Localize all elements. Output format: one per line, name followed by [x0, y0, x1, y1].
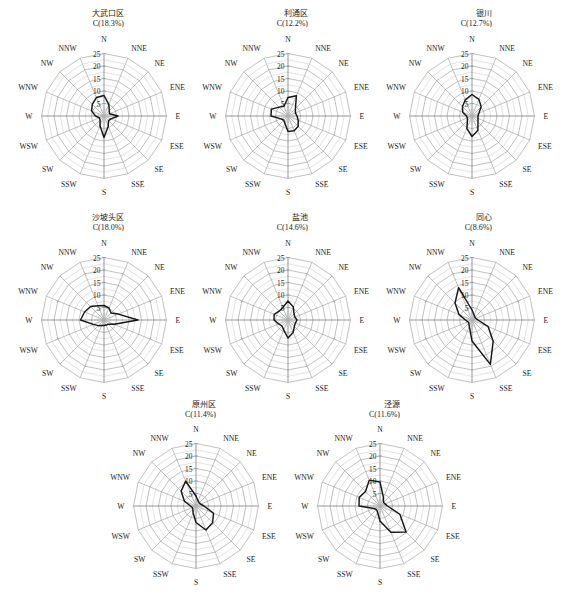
direction-label-se: SE: [523, 165, 532, 174]
direction-label-se: SE: [155, 369, 164, 378]
wind-frequency-polygon: [81, 306, 138, 326]
radial-tick-label: 10: [277, 87, 285, 96]
direction-label-ese: ESE: [538, 142, 552, 151]
direction-label-nne: NNE: [131, 44, 147, 53]
radial-tick-label: 20: [93, 266, 101, 275]
direction-label-wnw: WNW: [202, 287, 223, 296]
direction-label-ssw: SSW: [61, 180, 77, 189]
direction-label-wsw: WSW: [111, 532, 130, 541]
direction-label-nw: NW: [225, 263, 238, 272]
wind-rose-plot: 510152025NNNENEENEEESESESSESSSWSWWSWWWNW…: [292, 418, 468, 594]
direction-label-ne: NE: [339, 59, 349, 68]
direction-label-ese: ESE: [170, 142, 184, 151]
radial-tick-label: 15: [277, 75, 285, 84]
direction-label-n: N: [469, 239, 475, 248]
direction-label-nw: NW: [409, 59, 422, 68]
direction-label-s: S: [194, 578, 198, 587]
radial-tick-label: 20: [277, 266, 285, 275]
panel-title: 原州区C(11.4%): [130, 400, 216, 419]
direction-label-sse: SSE: [407, 570, 420, 579]
panel-station-name: 同心: [406, 213, 492, 223]
direction-label-w: W: [209, 112, 217, 121]
direction-label-nw: NW: [317, 449, 330, 458]
direction-label-nne: NNE: [499, 248, 515, 257]
direction-label-n: N: [193, 425, 199, 434]
direction-label-e: E: [175, 112, 180, 121]
wind-rose-panel: 510152025NNNENEENEEESESESSESSSWSWWSWWWNW…: [16, 232, 192, 408]
radial-tick-label: 20: [185, 452, 193, 461]
direction-label-ssw: SSW: [61, 384, 77, 393]
direction-label-nne: NNE: [315, 248, 331, 257]
direction-label-nne: NNE: [499, 44, 515, 53]
direction-label-sse: SSE: [499, 384, 512, 393]
wind-rose-plot: 510152025NNNENEENEEESESESSESSSWSWWSWWWNW…: [384, 232, 560, 408]
direction-label-s: S: [470, 188, 474, 197]
direction-label-nnw: NNW: [151, 434, 170, 443]
panel-station-name: 利通区: [222, 9, 308, 19]
radial-tick-label: 15: [461, 75, 469, 84]
direction-label-n: N: [285, 35, 291, 44]
direction-label-sw: SW: [226, 165, 238, 174]
direction-label-s: S: [470, 392, 474, 401]
direction-label-wnw: WNW: [294, 473, 315, 482]
radial-tick-label: 20: [277, 62, 285, 71]
direction-label-se: SE: [247, 555, 256, 564]
direction-label-se: SE: [431, 555, 440, 564]
direction-label-w: W: [209, 316, 217, 325]
direction-label-se: SE: [339, 369, 348, 378]
direction-label-ene: ENE: [446, 473, 461, 482]
direction-label-sw: SW: [42, 369, 54, 378]
direction-label-n: N: [469, 35, 475, 44]
direction-label-nnw: NNW: [427, 44, 446, 53]
direction-label-nw: NW: [409, 263, 422, 272]
wind-frequency-polygon: [274, 301, 297, 338]
radial-tick-label: 10: [277, 291, 285, 300]
panel-station-name: 盐池: [222, 213, 308, 223]
direction-label-wnw: WNW: [386, 287, 407, 296]
direction-label-wsw: WSW: [19, 346, 38, 355]
direction-label-ese: ESE: [262, 532, 276, 541]
panel-calm-percentage: C(18.0%): [38, 223, 124, 233]
panel-calm-percentage: C(12.2%): [222, 19, 308, 29]
direction-label-nnw: NNW: [59, 248, 78, 257]
direction-label-ne: NE: [247, 449, 257, 458]
radial-tick-label: 25: [461, 50, 469, 59]
direction-label-nnw: NNW: [243, 248, 262, 257]
wind-rose-plot: 510152025NNNENEENEEESESESSESSSWSWWSWWWNW…: [384, 28, 560, 204]
wind-rose-plot: 510152025NNNENEENEEESESESSESSSWSWWSWWWNW…: [16, 232, 192, 408]
direction-label-se: SE: [155, 165, 164, 174]
direction-label-n: N: [377, 425, 383, 434]
direction-label-ese: ESE: [446, 532, 460, 541]
radial-tick-label: 20: [369, 452, 377, 461]
panel-station-name: 银川: [406, 9, 492, 19]
radial-tick-label: 10: [461, 87, 469, 96]
direction-label-ssw: SSW: [245, 180, 261, 189]
direction-label-wsw: WSW: [203, 346, 222, 355]
radial-tick-label: 25: [461, 254, 469, 263]
radial-tick-label: 10: [93, 87, 101, 96]
radial-tick-label: 20: [461, 266, 469, 275]
panel-title: 同心C(8.6%): [406, 213, 492, 232]
radial-tick-label: 25: [369, 440, 377, 449]
direction-label-ene: ENE: [538, 287, 553, 296]
direction-label-nne: NNE: [315, 44, 331, 53]
wind-rose-plot: 510152025NNNENEENEEESESESSESSSWSWWSWWWNW…: [200, 28, 376, 204]
direction-label-ene: ENE: [354, 287, 369, 296]
direction-label-ssw: SSW: [429, 180, 445, 189]
direction-label-wnw: WNW: [202, 83, 223, 92]
direction-label-n: N: [101, 239, 107, 248]
radial-tick-label: 15: [369, 465, 377, 474]
direction-label-sw: SW: [410, 165, 422, 174]
direction-label-ene: ENE: [170, 83, 185, 92]
direction-label-ssw: SSW: [337, 570, 353, 579]
radial-tick-label: 15: [185, 465, 193, 474]
radial-tick-label: 20: [93, 62, 101, 71]
direction-label-n: N: [101, 35, 107, 44]
direction-label-nw: NW: [133, 449, 146, 458]
direction-label-sse: SSE: [131, 384, 144, 393]
direction-label-sse: SSE: [131, 180, 144, 189]
direction-label-ne: NE: [155, 263, 165, 272]
direction-label-ene: ENE: [262, 473, 277, 482]
direction-label-ese: ESE: [538, 346, 552, 355]
direction-label-ene: ENE: [354, 83, 369, 92]
